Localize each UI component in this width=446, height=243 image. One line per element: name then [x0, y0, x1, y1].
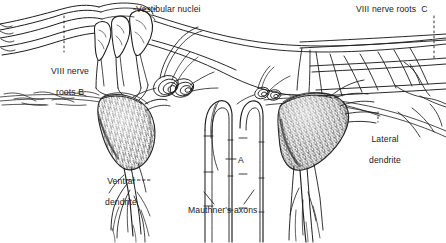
- right-fiber-bands: [300, 34, 446, 96]
- vestibular-nuclei-cluster: [94, 3, 155, 88]
- label-viii-nerve-roots-b-line2: roots B: [56, 87, 84, 97]
- label-lateral-dendrite-line1: Lateral: [371, 134, 398, 144]
- label-viii-nerve-roots-b-line1: VIII nerve: [51, 66, 89, 76]
- leader-mauthners-axons-right: [244, 190, 254, 204]
- label-vestibular-nuclei: Vestibular nuclei: [136, 4, 201, 14]
- label-marker-a: A: [238, 155, 244, 165]
- label-ventral-dendrite: Ventral dendrite: [86, 166, 146, 218]
- mauthners-axons: [204, 101, 264, 242]
- label-viii-nerve-roots-c: VIII nerve roots C: [356, 4, 428, 14]
- label-viii-nerve-roots-b: VIII nerve roots B: [32, 56, 98, 108]
- label-ventral-dendrite-line2: dendrite: [105, 197, 137, 207]
- viii-nerve-root-fibers-left: [0, 5, 102, 55]
- label-lateral-dendrite-line2: dendrite: [369, 155, 401, 165]
- label-ventral-dendrite-line1: Ventral: [107, 176, 135, 186]
- label-lateral-dendrite: Lateral dendrite: [344, 124, 416, 176]
- label-mauthners-axons: Mauthner's axons: [188, 205, 257, 215]
- mauthner-cell-figure: Vestibular nuclei VIII nerve roots B VII…: [0, 0, 446, 243]
